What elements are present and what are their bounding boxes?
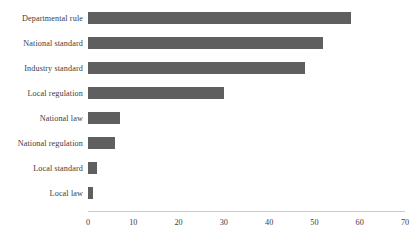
bar: [88, 187, 93, 199]
x-tick-label: 60: [340, 214, 380, 232]
bar: [88, 12, 351, 24]
bar: [88, 37, 323, 49]
bar-row: [88, 156, 405, 181]
bar: [88, 162, 97, 174]
bar: [88, 112, 120, 124]
x-tick-label: 70: [385, 214, 419, 232]
x-tick-label: 40: [249, 214, 289, 232]
x-axis-tick-labels: 010203040506070: [0, 214, 419, 236]
category-label: Departmental rule: [22, 6, 83, 31]
bar-row: [88, 106, 405, 131]
category-label: National regulation: [18, 131, 83, 156]
category-label: Local regulation: [28, 81, 83, 106]
bar-row: [88, 181, 405, 206]
plot-area: [88, 0, 405, 212]
bar-row: [88, 131, 405, 156]
category-label: Local law: [50, 181, 83, 206]
bar-chart: Departmental ruleNational standardIndust…: [0, 0, 419, 244]
bar: [88, 137, 115, 149]
bar-row: [88, 81, 405, 106]
x-tick-label: 50: [294, 214, 334, 232]
x-tick-label: 20: [159, 214, 199, 232]
x-tick-label: 0: [68, 214, 108, 232]
category-label: National standard: [23, 31, 83, 56]
category-axis: Departmental ruleNational standardIndust…: [0, 0, 83, 212]
x-tick-label: 10: [113, 214, 153, 232]
category-label: National law: [40, 106, 83, 131]
category-label: Local standard: [33, 156, 83, 181]
bar-row: [88, 31, 405, 56]
bar-row: [88, 6, 405, 31]
x-tick-label: 30: [204, 214, 244, 232]
bar: [88, 87, 224, 99]
category-label: Industry standard: [24, 56, 83, 81]
x-axis-line: [88, 211, 405, 212]
bar-row: [88, 56, 405, 81]
bar: [88, 62, 305, 74]
